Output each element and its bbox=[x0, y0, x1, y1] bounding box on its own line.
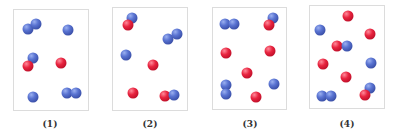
blue-atom-icon bbox=[342, 41, 353, 52]
panel-label: (4) bbox=[327, 119, 367, 129]
blue-atom-icon bbox=[71, 88, 82, 99]
red-atom-icon bbox=[318, 59, 329, 70]
red-atom-icon bbox=[242, 68, 253, 79]
blue-atom-icon bbox=[121, 50, 132, 61]
blue-atom-icon bbox=[28, 92, 39, 103]
red-atom-icon bbox=[360, 90, 371, 101]
blue-atom-icon bbox=[169, 90, 180, 101]
blue-atom-icon bbox=[229, 19, 240, 30]
panel-label: (1) bbox=[30, 119, 70, 129]
blue-atom-icon bbox=[221, 89, 232, 100]
red-atom-icon bbox=[148, 60, 159, 71]
blue-atom-icon bbox=[366, 58, 377, 69]
red-atom-icon bbox=[264, 20, 275, 31]
red-atom-icon bbox=[123, 20, 134, 31]
blue-atom-icon bbox=[63, 25, 74, 36]
red-atom-icon bbox=[365, 29, 376, 40]
red-atom-icon bbox=[128, 88, 139, 99]
blue-atom-icon bbox=[326, 91, 337, 102]
red-atom-icon bbox=[221, 48, 232, 59]
blue-atom-icon bbox=[172, 29, 183, 40]
red-atom-icon bbox=[265, 46, 276, 57]
blue-atom-icon bbox=[315, 25, 326, 36]
red-atom-icon bbox=[251, 92, 262, 103]
red-atom-icon bbox=[343, 11, 354, 22]
blue-atom-icon bbox=[269, 79, 280, 90]
panel-label: (2) bbox=[130, 119, 170, 129]
red-atom-icon bbox=[23, 61, 34, 72]
red-atom-icon bbox=[341, 72, 352, 83]
blue-atom-icon bbox=[31, 19, 42, 30]
red-atom-icon bbox=[56, 58, 67, 69]
panel-label: (3) bbox=[230, 119, 270, 129]
